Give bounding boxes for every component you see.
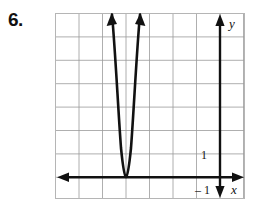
problem-number-label: 6. bbox=[8, 10, 23, 29]
y-axis-label: y bbox=[227, 16, 235, 31]
graph-svg: 1 – 1 y x bbox=[55, 13, 245, 199]
y-tick-label-one: 1 bbox=[201, 148, 207, 162]
x-axis-label: x bbox=[230, 182, 237, 197]
graph-background bbox=[55, 13, 245, 199]
coordinate-graph: 1 – 1 y x bbox=[55, 13, 245, 199]
x-tick-label-minus-one: – 1 bbox=[194, 183, 210, 197]
worksheet-problem-figure: 6. bbox=[0, 0, 266, 207]
